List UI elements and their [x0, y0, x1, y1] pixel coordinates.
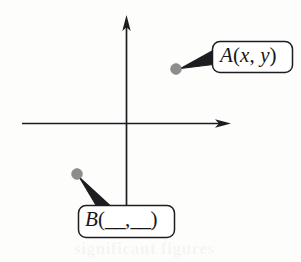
point-b-label: B(__,__) — [85, 209, 157, 230]
coordinate-plane-figure: significant figures — [0, 0, 301, 262]
point-b-label-blank-y: __ — [130, 207, 150, 231]
point-b-label-open-paren: ( — [98, 207, 105, 231]
point-a-leader-wedge — [181, 51, 214, 69]
point-a-label-letter: A — [220, 43, 233, 67]
point-b-dot — [72, 169, 83, 180]
point-a-dot — [171, 64, 182, 75]
axes-group — [22, 15, 231, 205]
point-b-label-letter: B — [85, 207, 98, 231]
point-a-label-comma: , — [249, 43, 260, 67]
point-a-label-y: y — [260, 43, 269, 67]
point-b-label-blank-x: __ — [105, 207, 125, 231]
point-b-leader-wedge — [80, 178, 111, 207]
point-a-label-open-paren: ( — [233, 43, 240, 67]
point-a-label: A(x, y) — [220, 45, 277, 66]
point-a-label-close-paren: ) — [270, 43, 277, 67]
point-b-label-close-paren: ) — [150, 207, 157, 231]
